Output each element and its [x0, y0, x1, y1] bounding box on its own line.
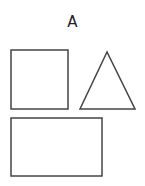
square-shape — [11, 50, 68, 109]
triangle-shape — [80, 52, 135, 109]
shapes-canvas — [0, 0, 145, 186]
rectangle-shape — [11, 118, 102, 176]
